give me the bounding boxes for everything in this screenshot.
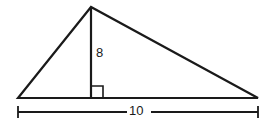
base-length-label: 10 [129,104,143,117]
altitude-length-label: 8 [96,46,103,59]
geometry-diagram: 8 10 [0,0,275,125]
triangle-outline [18,7,258,98]
right-angle-marker-icon [91,86,103,98]
